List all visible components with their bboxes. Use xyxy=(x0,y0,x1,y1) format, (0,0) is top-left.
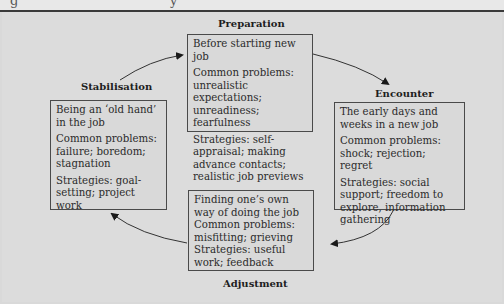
stage-box-adjustment: Finding one’s own way of doing the job C… xyxy=(188,190,314,271)
stage-label-stabilisation: Stabilisation xyxy=(81,81,152,92)
stage-box-preparation: Before starting new job Common problems:… xyxy=(187,34,313,132)
stage-description: The early days and weeks in a new job xyxy=(340,106,459,131)
stage-label-preparation: Preparation xyxy=(218,18,285,29)
stage-problems: Common problems: unrealistic expectation… xyxy=(193,67,307,130)
stage-strategies: Strategies: useful work; feedback xyxy=(194,244,308,269)
figure-caption-fragment: g y xyxy=(0,0,504,10)
caption-glyph: g xyxy=(10,0,18,8)
stage-label-encounter: Encounter xyxy=(375,88,433,99)
stage-strategies: Strategies: social support; freedom to e… xyxy=(340,177,459,227)
stage-problems: Common problems: failure; boredom; stagn… xyxy=(56,133,161,171)
caption-glyph: y xyxy=(170,0,177,8)
stage-box-encounter: The early days and weeks in a new job Co… xyxy=(334,102,465,210)
stage-strategies: Strategies: self-appraisal; making advan… xyxy=(193,134,307,184)
stage-box-stabilisation: Being an ‘old hand’ in the job Common pr… xyxy=(50,100,167,210)
stage-description: Before starting new job xyxy=(193,38,307,63)
stage-problems: Common problems: shock; rejection; regre… xyxy=(340,135,459,173)
stage-strategies: Strategies: goal-setting; project work xyxy=(56,175,161,213)
stage-label-adjustment: Adjustment xyxy=(223,278,288,289)
stage-problems: Common problems: misfitting; grieving xyxy=(194,219,308,244)
stage-description: Being an ‘old hand’ in the job xyxy=(56,104,161,129)
stage-description: Finding one’s own way of doing the job xyxy=(194,194,308,219)
